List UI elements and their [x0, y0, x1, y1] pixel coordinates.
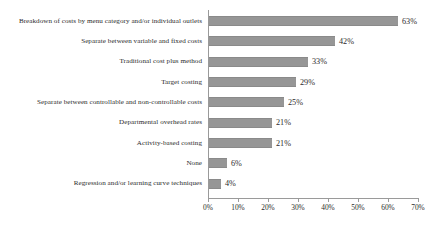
bar [209, 57, 308, 67]
bar-value-label: 29% [300, 78, 315, 88]
bar [209, 179, 221, 189]
bar [209, 158, 227, 168]
x-axis-tick-label: 30% [291, 203, 305, 213]
x-axis-tick-label: 70% [411, 203, 425, 213]
bar [209, 16, 398, 26]
x-axis-tick [238, 199, 239, 202]
bar [209, 36, 335, 46]
x-axis-tick [208, 199, 209, 202]
x-axis-tick [298, 199, 299, 202]
bar-value-label: 33% [312, 57, 327, 67]
x-axis-tick [358, 199, 359, 202]
category-label: Regression and/or learning curve techniq… [2, 179, 202, 188]
category-label: Separate between controllable and non-co… [2, 98, 202, 107]
x-axis-tick [418, 199, 419, 202]
bar [209, 138, 272, 148]
x-axis-tick-label: 10% [231, 203, 245, 213]
category-label: None [2, 159, 202, 168]
x-axis-tick-label: 60% [381, 203, 395, 213]
x-axis-tick-label: 50% [351, 203, 365, 213]
category-label: Breakdown of costs by menu category and/… [2, 17, 202, 26]
x-axis-tick [388, 199, 389, 202]
bar-value-label: 25% [288, 98, 303, 108]
x-axis-tick [268, 199, 269, 202]
bar-value-label: 42% [339, 37, 354, 47]
x-axis-tick [328, 199, 329, 202]
bar [209, 118, 272, 128]
category-label: Traditional cost plus method [2, 57, 202, 66]
bar-value-label: 63% [402, 17, 417, 27]
bar-value-label: 21% [276, 139, 291, 149]
category-label: Separate between variable and fixed cost… [2, 37, 202, 46]
bar-value-label: 6% [231, 159, 242, 169]
bar [209, 77, 296, 87]
plot-area: 0%10%20%30%40%50%60%70%63%42%33%29%25%21… [208, 0, 418, 198]
x-axis-tick-label: 20% [261, 203, 275, 213]
x-axis-tick-label: 0% [203, 203, 213, 213]
category-label-column: Breakdown of costs by menu category and/… [0, 0, 205, 198]
category-label: Target costing [2, 78, 202, 87]
category-label: Activity-based costing [2, 139, 202, 148]
bar [209, 97, 284, 107]
category-label: Departmental overhead rates [2, 118, 202, 127]
bar-value-label: 21% [276, 118, 291, 128]
bar-value-label: 4% [225, 179, 236, 189]
bar-chart: Breakdown of costs by menu category and/… [0, 0, 444, 230]
x-axis-tick-label: 40% [321, 203, 335, 213]
